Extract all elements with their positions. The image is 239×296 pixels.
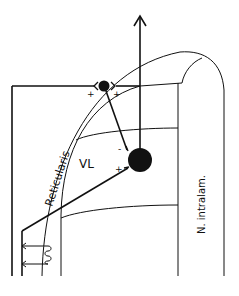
small-interneuron [99, 81, 110, 92]
vl-lower-curve [61, 205, 178, 218]
synapse-left-bracket [94, 82, 98, 90]
thalamus-circuit-diagram: + + - + VL Reticularis N. intralam. [0, 0, 239, 296]
synapse-large-upper [126, 146, 128, 151]
sign-small-right: + [113, 89, 121, 99]
reticular-inner-boundary [61, 83, 182, 276]
label-vl: VL [79, 157, 94, 171]
coil-icon [22, 243, 51, 267]
intralaminar-boundary [182, 58, 202, 83]
sign-small-left: + [87, 89, 95, 99]
inhibitory-axon [106, 91, 127, 150]
afferent-axon [22, 168, 128, 231]
label-reticularis: Reticularis [42, 149, 72, 208]
sign-large-plus: + [115, 164, 123, 174]
synapse-large-lower [124, 167, 129, 168]
large-relay-neuron [128, 148, 152, 172]
sign-large-minus: - [118, 144, 121, 154]
vl-upper-curve [76, 128, 178, 140]
label-intralaminar: N. intralam. [196, 175, 207, 234]
